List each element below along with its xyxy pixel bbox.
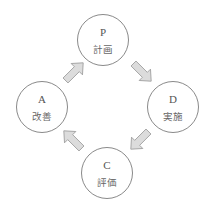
- node-plan: P 計画: [77, 14, 129, 66]
- arrow-p-to-d: [128, 58, 157, 87]
- node-do-label: 実施: [163, 111, 183, 122]
- node-act-letter: A: [38, 93, 46, 105]
- node-plan-letter: P: [100, 26, 106, 38]
- arrow-d-to-c: [125, 126, 154, 155]
- node-act-label: 改善: [32, 111, 52, 122]
- node-check-letter: C: [103, 159, 110, 171]
- node-check: C 評価: [81, 147, 133, 199]
- node-do-letter: D: [169, 93, 177, 105]
- arrow-a-to-p: [60, 57, 89, 86]
- node-plan-label: 計画: [93, 44, 113, 55]
- node-do: D 実施: [147, 81, 199, 133]
- node-check-label: 評価: [97, 177, 117, 188]
- arrow-c-to-a: [58, 125, 87, 154]
- node-act: A 改善: [16, 81, 68, 133]
